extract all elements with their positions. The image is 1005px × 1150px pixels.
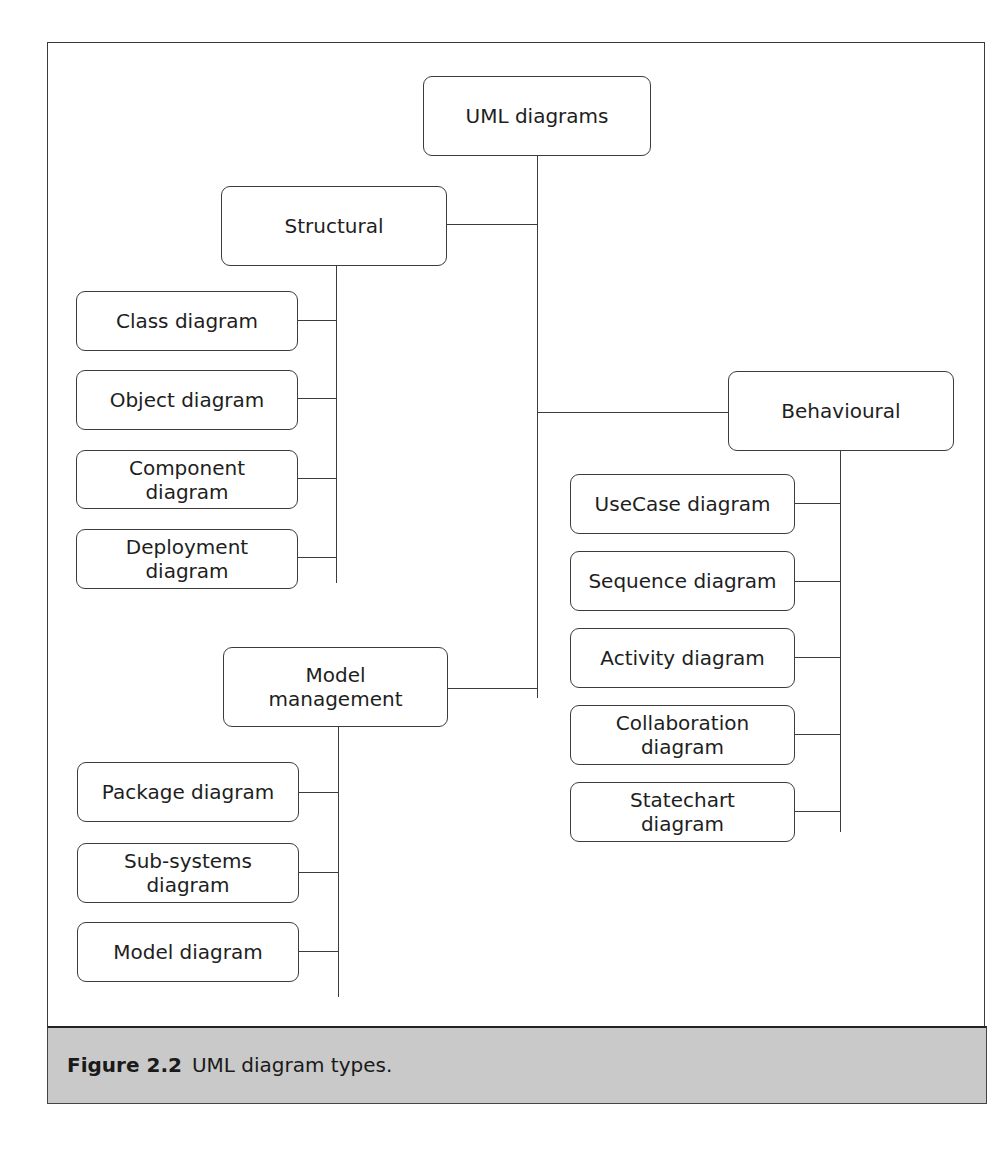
model-management-branch [448,688,538,689]
node-sequence-diagram: Sequence diagram [570,551,795,611]
trunk-line [537,156,538,698]
node-label: Deployment diagram [122,535,252,583]
category-label: Behavioural [781,399,900,423]
statechart-connector [795,811,840,812]
root-node-label: UML diagrams [466,104,609,128]
caption-text: Figure 2.2UML diagram types. [67,1053,392,1077]
sequence-connector [795,581,840,582]
node-label: Package diagram [102,780,274,804]
package-connector [299,792,338,793]
node-statechart-diagram: Statechart diagram [570,782,795,842]
structural-trunk [336,266,337,583]
deployment-connector [298,557,336,558]
object-connector [298,398,336,399]
category-label: Structural [285,214,384,238]
node-label: Class diagram [116,309,258,333]
node-label: Statechart diagram [618,788,748,836]
root-node: UML diagrams [423,76,651,156]
category-model-management: Model management [223,647,448,727]
node-label: Activity diagram [600,646,764,670]
caption-label: Figure 2.2 [67,1053,182,1077]
collaboration-connector [795,734,840,735]
node-subsystems-diagram: Sub-systems diagram [77,843,299,903]
node-label: Sequence diagram [588,569,776,593]
category-label: Model management [266,663,406,711]
figure-caption: Figure 2.2UML diagram types. [47,1026,987,1104]
node-label: Object diagram [110,388,265,412]
category-behavioural: Behavioural [728,371,954,451]
node-model-diagram: Model diagram [77,922,299,982]
node-object-diagram: Object diagram [76,370,298,430]
node-deployment-diagram: Deployment diagram [76,529,298,589]
class-connector [298,320,336,321]
node-label: Sub-systems diagram [118,849,258,897]
node-package-diagram: Package diagram [77,762,299,822]
node-label: UseCase diagram [595,492,771,516]
node-label: Model diagram [113,940,263,964]
category-structural: Structural [221,186,447,266]
node-component-diagram: Component diagram [76,450,298,509]
node-label: Component diagram [122,456,252,504]
usecase-connector [795,503,840,504]
caption-description: UML diagram types. [192,1053,392,1077]
node-label: Collaboration diagram [608,711,758,759]
model-diagram-connector [299,951,338,952]
activity-connector [795,657,840,658]
node-class-diagram: Class diagram [76,291,298,351]
behavioural-branch [537,412,728,413]
model-management-trunk [338,727,339,997]
structural-branch [447,224,537,225]
component-connector [298,478,336,479]
node-collaboration-diagram: Collaboration diagram [570,705,795,765]
node-activity-diagram: Activity diagram [570,628,795,688]
subsystems-connector [299,872,338,873]
behavioural-trunk [840,451,841,832]
node-usecase-diagram: UseCase diagram [570,474,795,534]
